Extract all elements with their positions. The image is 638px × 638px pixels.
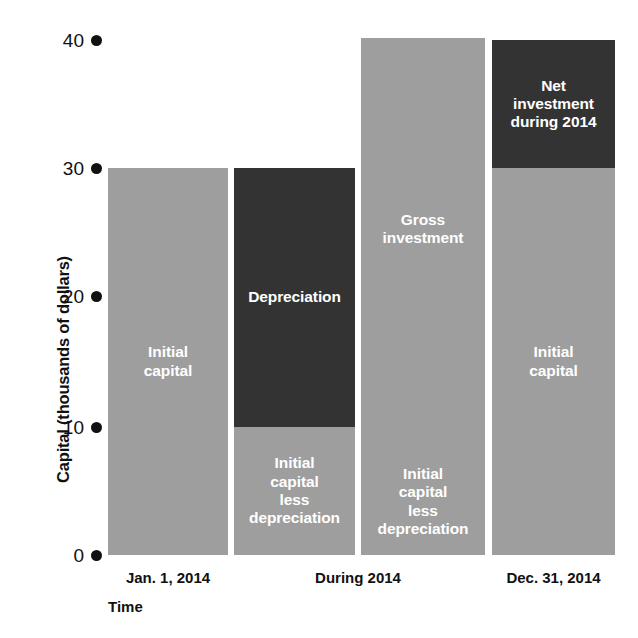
x-tick-label-during-2014: During 2014 [296, 569, 420, 586]
bar-segment-label: Initial capital [141, 343, 195, 380]
x-axis-title: Time [108, 598, 143, 615]
bar-during-2014-gross-investment[interactable]: Gross investment Initial capital less de… [361, 38, 485, 555]
bar-segment-initial-capital-less-depreciation[interactable]: Initial capital less depreciation [234, 427, 355, 555]
bar-dec-31-2014[interactable]: Net investment during 2014 Initial capit… [492, 40, 615, 555]
bar-segment-initial-capital[interactable]: Initial capital [492, 168, 615, 555]
bar-segment-label: Net investment during 2014 [508, 77, 600, 132]
bar-segment-net-investment[interactable]: Net investment during 2014 [492, 40, 615, 168]
x-tick-label-jan-1-2014: Jan. 1, 2014 [108, 569, 228, 586]
plot-area: Initial capital Depreciation Initial cap… [0, 0, 638, 638]
bar-segment-label: Depreciation [245, 288, 344, 306]
bar-jan-1-2014[interactable]: Initial capital [108, 168, 228, 555]
bar-during-2014-depreciation[interactable]: Depreciation Initial capital less deprec… [234, 168, 355, 555]
bar-segment-label: Initial capital less depreciation [246, 454, 343, 527]
x-tick-label-dec-31-2014: Dec. 31, 2014 [492, 569, 615, 586]
bar-segment-initial-capital[interactable]: Initial capital [108, 168, 228, 555]
bar-segment-label: Initial capital [526, 343, 580, 380]
bar-chart: Capital (thousands of dollars) 40 30 20 … [0, 0, 638, 638]
bar-segment-depreciation[interactable]: Depreciation [234, 168, 355, 427]
bar-label-initial-capital-less-depreciation: Initial capital less depreciation [361, 465, 485, 538]
bar-label-gross-investment: Gross investment [361, 211, 485, 248]
